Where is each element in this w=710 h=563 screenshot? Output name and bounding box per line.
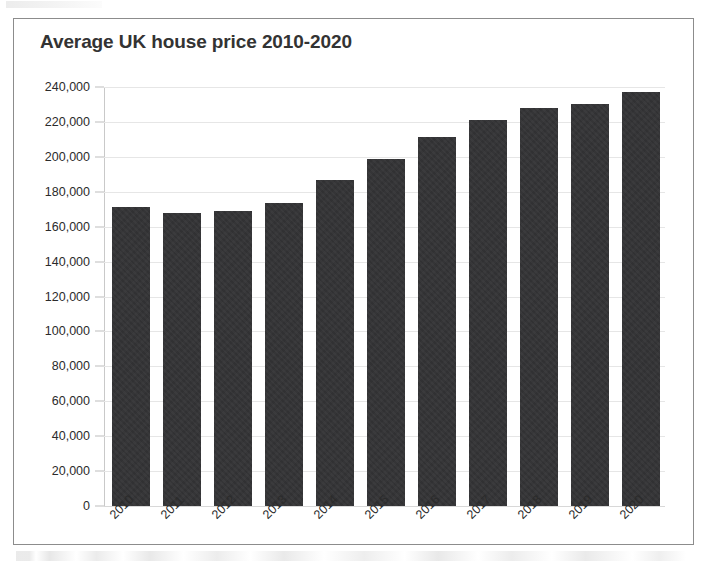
- bar[interactable]: [622, 92, 660, 506]
- y-axis-tick-mark: [95, 436, 104, 437]
- y-axis-tick-mark: [95, 261, 104, 262]
- y-axis-tick-mark: [95, 87, 104, 88]
- y-axis-tick-label: 120,000: [45, 290, 90, 304]
- bar-series: [104, 87, 665, 506]
- y-axis-tick-mark: [95, 471, 104, 472]
- bar[interactable]: [469, 120, 507, 506]
- y-axis-tick-mark: [95, 296, 104, 297]
- bar[interactable]: [265, 203, 303, 506]
- bar-slot: [367, 87, 405, 506]
- y-axis-tick-mark: [95, 191, 104, 192]
- y-axis-tick-label: 220,000: [45, 115, 90, 129]
- y-axis-tick-label: 100,000: [45, 324, 90, 338]
- bar-slot: [214, 87, 252, 506]
- bar-slot: [520, 87, 558, 506]
- y-axis-tick-label: 240,000: [45, 80, 90, 94]
- y-axis-tick-mark: [95, 156, 104, 157]
- bar-slot: [112, 87, 150, 506]
- bar[interactable]: [214, 211, 252, 506]
- bar[interactable]: [571, 104, 609, 506]
- chart-frame: Average UK house price 2010-2020 240,000…: [13, 18, 694, 545]
- plot-area: [104, 87, 665, 506]
- y-axis-tick-label: 180,000: [45, 185, 90, 199]
- bar-slot: [316, 87, 354, 506]
- bar[interactable]: [367, 159, 405, 506]
- y-axis-tick-mark: [95, 506, 104, 507]
- bar-slot: [571, 87, 609, 506]
- y-axis-tick-label: 0: [83, 499, 90, 513]
- y-axis-tick-mark: [95, 121, 104, 122]
- y-axis-tick-label: 80,000: [52, 359, 90, 373]
- bar[interactable]: [163, 213, 201, 506]
- bar[interactable]: [112, 207, 150, 506]
- y-axis-tick-label: 40,000: [52, 429, 90, 443]
- bar[interactable]: [520, 108, 558, 506]
- bar-slot: [418, 87, 456, 506]
- bar-slot: [469, 87, 507, 506]
- y-axis-tick-mark: [95, 401, 104, 402]
- y-axis-tick-mark: [95, 366, 104, 367]
- y-axis-tick-label: 140,000: [45, 255, 90, 269]
- bar-slot: [622, 87, 660, 506]
- bar[interactable]: [316, 180, 354, 506]
- y-axis-tick-mark: [95, 331, 104, 332]
- y-axis-tick-label: 200,000: [45, 150, 90, 164]
- scan-artifact-bottom: [16, 551, 686, 561]
- y-axis-tick-label: 160,000: [45, 220, 90, 234]
- y-axis-tick-labels: 240,000220,000200,000180,000160,000140,0…: [14, 87, 104, 506]
- page-title: Average UK house price 2010-2020: [40, 31, 352, 53]
- bar[interactable]: [418, 137, 456, 506]
- y-axis-tick-label: 60,000: [52, 394, 90, 408]
- bar-slot: [163, 87, 201, 506]
- bar-slot: [265, 87, 303, 506]
- y-axis-tick-mark: [95, 226, 104, 227]
- y-axis-tick-label: 20,000: [52, 464, 90, 478]
- scan-artifact-top: [6, 1, 102, 8]
